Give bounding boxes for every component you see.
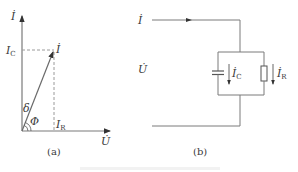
input-current-label: İ (137, 13, 143, 27)
voltage-label: U̇ (138, 63, 148, 76)
ir-branch-label: İR (276, 66, 287, 81)
parallel-rc-circuit: İ U̇ İC İR (b) (137, 13, 287, 157)
current-label: İ (55, 42, 61, 56)
current-arrow-icon (186, 18, 192, 22)
phi-label: Φ (30, 115, 39, 128)
figure-canvas: İ IC İ δ Φ IR U̇ (a) İ U̇ İC İR (0, 0, 298, 172)
ir-label: IR (55, 118, 66, 132)
delta-label: δ (23, 102, 30, 115)
phasor-diagram: İ IC İ δ Φ IR U̇ (a) (5, 9, 111, 157)
resistor (261, 66, 267, 81)
faint-figure-caption (80, 167, 220, 170)
y-axis-label: İ (10, 9, 16, 23)
x-axis-label: U̇ (101, 135, 111, 148)
caption-b: (b) (193, 146, 207, 157)
ic-branch-label: İC (231, 66, 242, 81)
ic-label: IC (5, 44, 16, 58)
phi-arc-inner (24, 125, 28, 131)
caption-a: (a) (47, 146, 61, 157)
